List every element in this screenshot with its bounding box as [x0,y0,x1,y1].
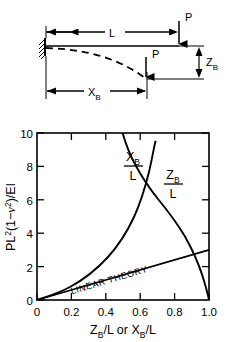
x-tick-0: 0 [34,306,40,318]
svg-text:L: L [130,169,137,183]
x-tick-1-0: 1.0 [201,306,217,318]
curve-label-zb: ZB L [164,168,183,201]
x-tick-0-6: 0.6 [132,306,148,318]
y-tick-4: 4 [27,228,34,240]
load-P-top: P [179,11,192,44]
cantilever-beam-diagram: L P P ZB [0,0,236,112]
y-tick-0: 0 [27,295,33,307]
label-P-top: P [185,11,192,23]
dimension-XB: XB [46,56,147,102]
svg-text:L: L [170,187,177,201]
chart: 10 8 6 4 2 0 0 0.2 0.4 0.6 0.8 1.0 PL2(1… [0,112,236,342]
y-tick-6: 6 [27,195,33,207]
x-tick-0-4: 0.4 [98,306,115,318]
y-tick-10: 10 [20,128,33,140]
load-P-tip: P [146,48,159,77]
y-tick-8: 8 [27,161,33,173]
y-axis-label: PL2(1−ν2)/EI [3,183,19,251]
fixed-support-hatching [39,38,45,59]
svg-text:PL2(1−ν2)/EI: PL2(1−ν2)/EI [3,183,19,251]
y-tick-labels: 10 8 6 4 2 0 [20,128,33,307]
x-tick-labels: 0 0.2 0.4 0.6 0.8 1.0 [34,306,217,318]
svg-text:XB: XB [126,150,140,167]
y-tick-2: 2 [27,262,33,274]
label-P-tip: P [152,48,159,60]
dimension-L: L [46,24,178,40]
svg-text:ZB: ZB [166,168,180,185]
x-tick-0-2: 0.2 [63,306,79,318]
label-ZB: ZB [206,56,218,72]
label-L: L [109,27,115,39]
figure-container: L P P ZB [0,0,236,342]
deflected-beam-curve [46,48,145,78]
x-tick-0-8: 0.8 [167,306,183,318]
curve-label-xb: XB L [124,150,143,183]
x-axis-label: ZB/L or XB/L [90,323,156,340]
